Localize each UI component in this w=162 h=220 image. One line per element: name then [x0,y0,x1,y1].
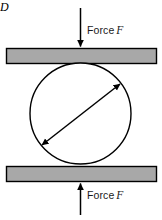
compression-diagram: ForceF ForceF D [0,0,162,220]
specimen-circle [30,63,131,164]
top-platen [7,49,157,64]
force-label-top: ForceF [87,24,123,36]
bottom-platen [7,167,157,182]
force-label-bottom-text: Force [87,189,114,201]
diagram-canvas [0,0,162,220]
force-label-top-symbol: F [114,24,123,36]
force-label-top-text: Force [87,24,114,36]
force-label-bottom-symbol: F [114,189,123,201]
force-label-bottom: ForceF [87,189,123,201]
